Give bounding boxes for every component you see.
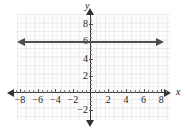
y-tick xyxy=(90,29,93,30)
x-tick xyxy=(47,90,48,93)
x-tick xyxy=(95,90,96,93)
x-tick-label: 8 xyxy=(159,95,164,105)
y-tick xyxy=(90,54,93,55)
x-tick xyxy=(113,90,114,93)
x-tick xyxy=(152,90,153,93)
x-tick xyxy=(20,89,21,93)
y-tick xyxy=(90,37,93,38)
y-tick xyxy=(90,105,93,106)
y-tick xyxy=(90,97,93,98)
y-tick xyxy=(89,76,93,77)
y-tick xyxy=(90,67,93,68)
x-tick xyxy=(135,90,136,93)
y-tick-label: −2 xyxy=(77,105,88,115)
x-tick-label: 6 xyxy=(141,95,146,105)
x-tick xyxy=(55,89,56,93)
y-tick xyxy=(90,20,93,21)
y-tick xyxy=(90,50,93,51)
function-line-y-equals-6 xyxy=(24,41,157,43)
x-tick xyxy=(29,90,30,93)
x-tick xyxy=(64,90,65,93)
x-tick-label: 4 xyxy=(123,95,128,105)
x-tick-label: −6 xyxy=(32,95,43,105)
x-tick xyxy=(86,90,87,93)
y-tick xyxy=(90,63,93,64)
x-tick xyxy=(82,90,83,93)
x-tick xyxy=(157,90,158,93)
x-tick xyxy=(126,89,127,93)
coordinate-plane-figure: −8−6−4−22468 8642−2 y x xyxy=(0,0,188,129)
x-tick xyxy=(108,89,109,93)
y-tick xyxy=(90,88,93,89)
x-tick xyxy=(42,90,43,93)
y-tick-label: 4 xyxy=(83,54,88,64)
y-axis-label: y xyxy=(85,1,89,11)
x-tick xyxy=(166,90,167,93)
x-tick xyxy=(130,90,131,93)
x-tick-label: −4 xyxy=(50,95,61,105)
x-tick xyxy=(99,90,100,93)
y-tick xyxy=(89,110,93,111)
x-tick xyxy=(73,89,74,93)
x-tick xyxy=(77,90,78,93)
x-tick-label: 2 xyxy=(106,95,111,105)
y-tick xyxy=(90,101,93,102)
x-tick xyxy=(148,90,149,93)
y-tick xyxy=(90,71,93,72)
x-tick xyxy=(16,90,17,93)
y-tick xyxy=(90,33,93,34)
y-tick xyxy=(90,84,93,85)
x-tick xyxy=(60,90,61,93)
y-axis-line xyxy=(90,14,91,124)
y-axis-arrow-down-icon xyxy=(86,120,94,127)
x-tick xyxy=(144,89,145,93)
x-tick xyxy=(33,90,34,93)
x-tick xyxy=(51,90,52,93)
y-tick-label: 8 xyxy=(83,19,88,29)
x-axis-arrow-left-icon xyxy=(7,89,14,97)
x-tick xyxy=(121,90,122,93)
x-tick xyxy=(139,90,140,93)
function-line-arrow-left-icon xyxy=(17,38,25,46)
x-tick-label: −8 xyxy=(15,95,26,105)
x-axis-label: x xyxy=(176,87,180,97)
x-tick xyxy=(104,90,105,93)
x-tick xyxy=(38,89,39,93)
x-tick xyxy=(69,90,70,93)
y-tick xyxy=(90,46,93,47)
x-tick xyxy=(161,89,162,93)
x-tick xyxy=(117,90,118,93)
function-line-arrow-right-icon xyxy=(156,38,164,46)
x-tick xyxy=(24,90,25,93)
y-tick-label: 2 xyxy=(83,71,88,81)
y-tick xyxy=(89,59,93,60)
y-tick xyxy=(90,80,93,81)
y-tick xyxy=(89,24,93,25)
